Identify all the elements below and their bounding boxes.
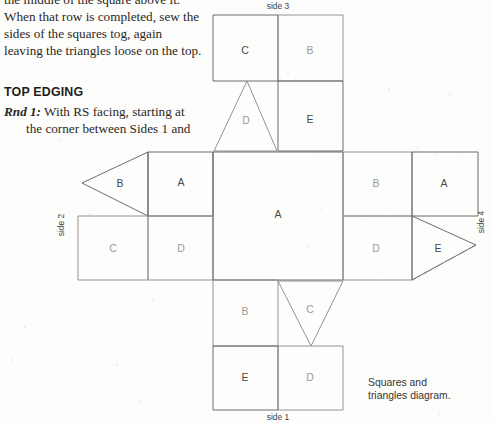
paper-speck xyxy=(130,349,131,350)
paper-speck xyxy=(116,364,118,366)
paper-speck xyxy=(20,117,22,119)
paper-speck xyxy=(116,77,117,78)
paper-speck xyxy=(449,94,451,96)
paper-speck xyxy=(12,386,13,387)
paper-speck xyxy=(155,396,156,397)
paper-speck xyxy=(13,141,14,142)
paper-speck xyxy=(381,67,382,68)
paper-speck xyxy=(366,101,367,102)
paper-speck xyxy=(402,38,403,39)
paper-speck xyxy=(348,206,349,207)
caption-line-2: triangles diagram. xyxy=(368,389,478,402)
square-bottom-E-label: E xyxy=(241,371,248,383)
paper-speck xyxy=(454,39,455,40)
paper-speck xyxy=(184,180,185,181)
paper-speck xyxy=(454,93,455,94)
paper-speck xyxy=(70,94,71,95)
paper-speck xyxy=(307,245,309,247)
side-label-right: side 4 xyxy=(476,210,486,233)
square-center-A-label: A xyxy=(274,208,281,220)
paper-speck xyxy=(166,32,167,33)
square-left-D-label: D xyxy=(177,242,185,254)
paper-speck xyxy=(336,114,337,115)
paper-speck xyxy=(23,50,25,52)
paper-speck xyxy=(267,7,269,9)
paper-speck xyxy=(360,116,361,117)
paper-speck xyxy=(243,219,244,220)
paper-speck xyxy=(45,286,46,287)
side-label-layer: side 3side 1side 2side 4 xyxy=(56,1,486,422)
paper-speck xyxy=(89,213,91,215)
paper-speck xyxy=(332,215,333,216)
paper-speck xyxy=(321,209,322,210)
paper-speck xyxy=(117,54,118,55)
paper-speck xyxy=(171,98,172,99)
square-bottom-D-label: D xyxy=(306,371,314,383)
paper-speck xyxy=(316,188,317,189)
paper-speck xyxy=(310,332,312,334)
square-lower-B-label: B xyxy=(241,305,248,317)
paper-speck xyxy=(271,97,272,98)
paper-speck xyxy=(81,229,82,230)
paper-speck xyxy=(164,66,165,67)
paper-speck xyxy=(16,15,17,16)
paper-speck xyxy=(316,177,317,178)
paper-speck xyxy=(287,72,289,74)
paper-speck xyxy=(44,54,45,55)
paper-speck xyxy=(481,95,482,96)
paper-speck xyxy=(238,143,239,144)
paper-speck xyxy=(146,286,147,287)
paper-speck xyxy=(480,82,481,83)
paper-speck xyxy=(446,41,447,42)
paper-speck xyxy=(140,400,142,402)
paper-speck xyxy=(250,253,251,254)
paper-speck xyxy=(9,83,10,84)
paper-speck xyxy=(68,314,69,315)
paper-speck xyxy=(188,202,190,204)
paper-speck xyxy=(294,237,295,238)
paper-speck xyxy=(316,155,317,156)
diagram-caption: Squares and triangles diagram. xyxy=(368,376,478,403)
paper-speck xyxy=(456,157,457,158)
paper-speck xyxy=(446,135,447,136)
paper-speck xyxy=(0,277,2,279)
square-top-B-label: B xyxy=(306,44,313,56)
paper-speck xyxy=(168,321,169,322)
paper-speck xyxy=(119,168,120,169)
paper-speck xyxy=(142,30,143,31)
paper-speck xyxy=(168,59,169,60)
paper-speck xyxy=(193,402,194,403)
paper-speck xyxy=(292,258,293,259)
paper-speck xyxy=(145,134,146,135)
paper-speck xyxy=(292,409,293,410)
paper-speck xyxy=(254,21,255,22)
paper-speck xyxy=(246,199,247,200)
caption-line-1: Squares and xyxy=(368,376,478,389)
paper-speck xyxy=(31,196,32,197)
triangle-left-B xyxy=(82,152,148,216)
paper-speck xyxy=(257,221,258,222)
paper-speck xyxy=(379,182,380,183)
square-left-A-label: A xyxy=(177,176,184,188)
paper-speck xyxy=(127,384,129,386)
side-label-bottom: side 1 xyxy=(267,412,290,422)
paper-speck xyxy=(175,22,176,23)
paper-speck xyxy=(483,92,484,93)
triangle-right-E xyxy=(412,216,476,280)
paper-speck xyxy=(152,193,153,194)
paper-speck xyxy=(388,88,390,90)
square-left-C-label: C xyxy=(109,242,117,254)
paper-speck xyxy=(254,384,255,385)
page-root: the middle of the square above it. When … xyxy=(0,0,492,422)
paper-speck xyxy=(348,94,349,95)
paper-speck xyxy=(445,199,446,200)
paper-speck xyxy=(352,120,353,121)
paper-speck xyxy=(51,284,52,285)
paper-speck xyxy=(319,209,321,211)
paper-speck xyxy=(247,206,248,207)
paper-speck xyxy=(219,258,220,259)
paper-speck xyxy=(387,215,389,217)
paper-speck xyxy=(230,7,231,8)
paper-speck xyxy=(369,393,370,394)
paper-speck xyxy=(81,65,82,66)
